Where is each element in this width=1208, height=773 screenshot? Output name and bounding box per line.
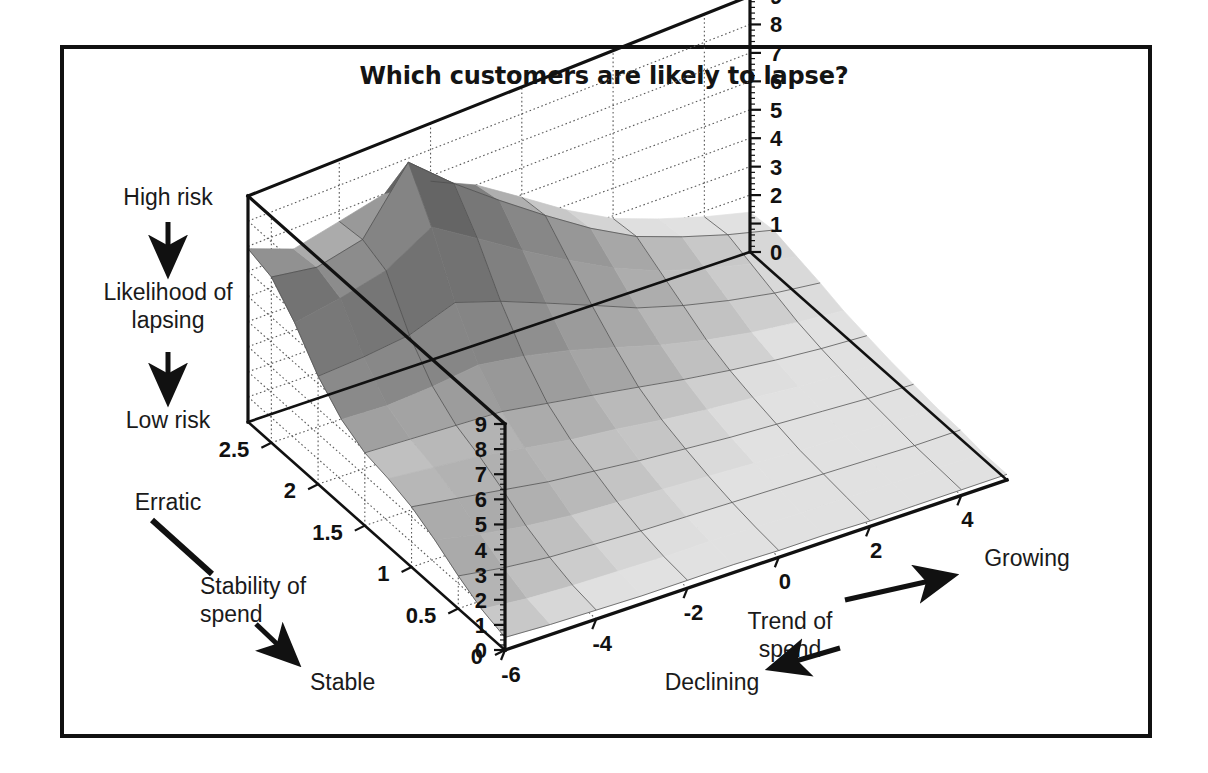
z-tick-left-2: 2 — [475, 588, 487, 613]
y-tick-0: 0 — [471, 644, 483, 669]
x-tick-4: 4 — [961, 507, 974, 532]
x-tick-0: 0 — [779, 569, 791, 594]
z-tick-left-1: 1 — [475, 613, 487, 638]
x-right-arrow-icon — [845, 576, 952, 600]
z-axis-annotation: High risk Likelihood of lapsing Low risk — [103, 184, 233, 433]
z-tick-left-3: 3 — [475, 563, 487, 588]
x-low-label: Declining — [665, 669, 760, 695]
y-tick-2.5: 2.5 — [219, 437, 250, 462]
y-tick-2: 2 — [284, 478, 296, 503]
z-tick-left-9: 9 — [475, 412, 487, 437]
z-tick-right-9: 9 — [770, 0, 782, 9]
z-tick-right-4: 4 — [770, 126, 783, 151]
y-low-label: Stable — [310, 669, 375, 695]
z-tick-right-8: 8 — [770, 12, 782, 37]
z-tick-right-2: 2 — [770, 183, 782, 208]
y-down-arrow-icon — [256, 624, 296, 662]
figure-root: Which customers are likely to lapse? 987… — [0, 0, 1208, 773]
x-tick--4: -4 — [592, 631, 612, 656]
x-high-label: Growing — [984, 545, 1070, 571]
y-name-line2: spend — [200, 601, 263, 627]
z-tick-right-3: 3 — [770, 155, 782, 180]
z-tick-left-4: 4 — [475, 538, 488, 563]
z-name-line2: lapsing — [132, 307, 205, 333]
surface-mesh — [248, 162, 1007, 637]
x-tick--6: -6 — [501, 662, 521, 687]
z-name-line1: Likelihood of — [103, 279, 233, 305]
y-tick-0.5: 0.5 — [406, 603, 437, 628]
y-name-line1: Stability of — [200, 573, 307, 599]
z-tick-right-7: 7 — [770, 41, 782, 66]
z-high-label: High risk — [123, 184, 213, 210]
z-tick-left-6: 6 — [475, 487, 487, 512]
z-tick-left-5: 5 — [475, 512, 487, 537]
x-name-line1: Trend of — [748, 608, 833, 634]
y-connector-line — [152, 520, 212, 574]
z-tick-right-6: 6 — [770, 69, 782, 94]
z-tick-left-7: 7 — [475, 462, 487, 487]
y-high-label: Erratic — [135, 489, 201, 515]
z-low-label: Low risk — [126, 407, 211, 433]
x-tick--2: -2 — [684, 600, 704, 625]
z-tick-right-1: 1 — [770, 212, 782, 237]
z-tick-left-8: 8 — [475, 437, 487, 462]
z-tick-right-0: 0 — [770, 240, 782, 265]
y-tick-1.5: 1.5 — [312, 520, 343, 545]
x-tick-2: 2 — [870, 538, 882, 563]
z-tick-right-5: 5 — [770, 98, 782, 123]
y-tick-1: 1 — [377, 561, 389, 586]
surface-plot: 987654321098765432102.521.510.50-6-4-202… — [0, 0, 1208, 773]
